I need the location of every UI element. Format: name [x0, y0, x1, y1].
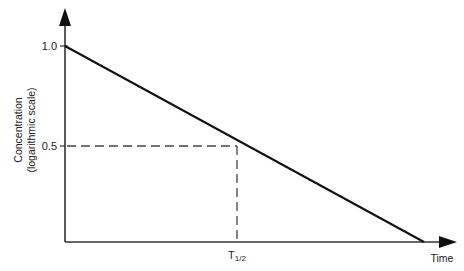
- y-tick-label-05: 0.5: [42, 140, 57, 152]
- half-life-chart: 1.0 0.5 T1/2 Time Concentration (logarit…: [0, 0, 464, 271]
- y-axis-sublabel: (logarithmic scale): [25, 87, 37, 172]
- x-tick-label-half-life: T1/2: [228, 249, 246, 263]
- y-axis-label: Concentration: [12, 97, 24, 163]
- y-axis-arrow-icon: [59, 8, 71, 26]
- concentration-line: [65, 46, 424, 242]
- y-tick-label-1: 1.0: [42, 40, 57, 52]
- x-axis-arrow-icon: [439, 236, 457, 248]
- x-axis-label: Time: [431, 252, 454, 264]
